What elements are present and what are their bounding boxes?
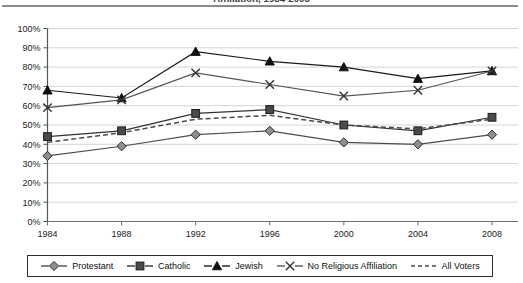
legend-marker-none-icon [410,260,438,272]
data-series-group [43,47,497,160]
series-no-religious-affiliation [43,67,496,112]
data-point-diamond [265,126,274,135]
y-axis-labels: 0%10%20%30%40%50%60%70%80%90%100% [17,24,40,227]
y-axis-tick-label: 0% [27,217,40,227]
legend-item-catholic[interactable]: Catholic [126,260,191,272]
data-point-square [136,262,144,270]
data-point-triangle [43,86,52,94]
legend-marker-triangle-icon [203,260,231,272]
series-jewish [43,47,497,102]
data-point-diamond [339,138,348,147]
legend-item-label: No Religious Affiliation [308,262,397,271]
legend-item-all-voters[interactable]: All Voters [410,260,480,272]
chart-legend: ProtestantCatholicJewishNo Religious Aff… [27,255,493,277]
x-axis-tick-label: 1996 [260,229,280,239]
legend-item-label: Jewish [235,262,263,271]
legend-marker-x-icon [276,260,304,272]
legend-item-no-religious-affiliation[interactable]: No Religious Affiliation [276,260,397,272]
x-axis-tick-label: 2004 [408,229,428,239]
legend-marker-diamond-icon [40,260,68,272]
data-point-diamond [43,151,52,160]
legend-item-label: Protestant [72,262,113,271]
y-axis-tick-label: 30% [22,159,40,169]
data-point-diamond [191,130,200,139]
y-axis-tick-label: 100% [17,24,40,34]
y-axis-tick-label: 90% [22,43,40,53]
x-axis-tick-label: 1988 [112,229,132,239]
y-axis-tick-label: 70% [22,82,40,92]
y-axis-tick-label: 40% [22,140,40,150]
legend-item-label: Catholic [158,262,191,271]
data-point-square [266,106,274,114]
chart-plot-area: 0%10%20%30%40%50%60%70%80%90%100% 198419… [0,0,523,283]
data-point-square [44,133,52,141]
data-point-diamond [487,130,496,139]
series-line [48,71,493,108]
legend-item-label: All Voters [442,262,480,271]
data-point-triangle [191,47,200,55]
x-axis-tick-label: 2008 [482,229,502,239]
x-axis-tick-label: 2000 [334,229,354,239]
data-point-triangle [213,261,222,269]
y-axis-tick-label: 10% [22,198,40,208]
x-axis-tick-label: 1984 [37,229,57,239]
data-point-diamond [413,140,422,149]
data-point-square [192,110,200,118]
data-point-diamond [50,261,59,270]
legend-item-jewish[interactable]: Jewish [203,260,263,272]
x-axis-tick-label: 1992 [186,229,206,239]
y-axis-tick-label: 20% [22,178,40,188]
y-axis-tick-label: 50% [22,120,40,130]
y-axis-tick-label: 60% [22,101,40,111]
chart-container: Affiliation, 1984-2008 0%10%20%30%40%50%… [0,0,523,283]
x-axis-labels: 1984198819921996200020042008 [37,222,502,239]
data-point-diamond [117,142,126,151]
data-point-square [118,127,126,135]
legend-marker-square-icon [126,260,154,272]
legend-item-protestant[interactable]: Protestant [40,260,113,272]
y-axis-tick-label: 80% [22,62,40,72]
